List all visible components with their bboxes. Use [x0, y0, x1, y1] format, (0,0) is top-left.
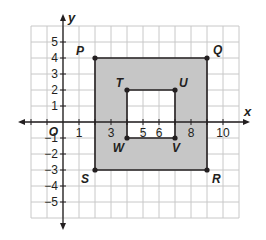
point-label-Q: Q	[213, 43, 223, 57]
point-label-U: U	[179, 76, 188, 90]
point-P	[92, 55, 97, 60]
x-tick-label: 8	[188, 126, 195, 140]
point-W	[124, 135, 129, 140]
y-tick-label: 5	[51, 35, 58, 49]
x-axis-right-arrow-icon	[243, 119, 250, 125]
point-label-R: R	[212, 172, 221, 186]
point-label-S: S	[81, 172, 89, 186]
x-tick-label: 6	[156, 126, 163, 140]
y-tick-label: 4	[51, 51, 58, 65]
y-axis-up-arrow-icon	[60, 14, 66, 21]
y-tick-label: −4	[44, 179, 58, 193]
origin-label: O	[49, 125, 59, 139]
point-Q	[204, 55, 209, 60]
x-axis-left-arrow-icon	[18, 119, 25, 125]
x-tick-label: 1	[76, 126, 83, 140]
y-tick-label: −5	[44, 195, 58, 209]
point-label-P: P	[76, 44, 85, 58]
y-tick-label: 1	[51, 99, 58, 113]
tick-labels: 135681054321−1−2−3−4−5Oxy	[44, 10, 252, 209]
x-axis-label: x	[243, 104, 252, 119]
point-T	[124, 87, 129, 92]
y-tick-label: 2	[51, 83, 58, 97]
y-axis-label: y	[67, 10, 76, 25]
point-label-V: V	[172, 141, 181, 155]
point-V	[172, 135, 177, 140]
x-tick-label: 10	[216, 126, 230, 140]
inner-rectangle-TUVW	[127, 90, 175, 138]
x-tick-label: 5	[140, 126, 147, 140]
y-axis-down-arrow-icon	[60, 223, 66, 230]
y-tick-label: 3	[51, 67, 58, 81]
y-tick-label: −2	[44, 147, 58, 161]
point-U	[172, 87, 177, 92]
point-label-W: W	[113, 141, 126, 155]
y-tick-label: −3	[44, 163, 58, 177]
coordinate-plane: 135681054321−1−2−3−4−5Oxy PQRSTUVW	[0, 0, 266, 240]
point-S	[92, 167, 97, 172]
point-R	[204, 167, 209, 172]
x-tick-label: 3	[108, 126, 115, 140]
